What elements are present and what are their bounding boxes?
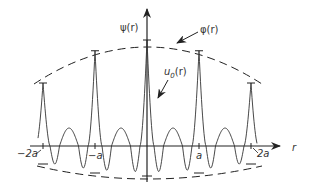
envelope-arrow	[177, 32, 198, 43]
diagram-canvas: ψ(r) r φ(r) u0(r) −2a −a a 2a	[0, 0, 314, 187]
y-axis-label: ψ(r)	[120, 22, 139, 33]
tick-label-minus-2a: −2a	[17, 148, 38, 159]
periodic-arrow	[158, 80, 168, 98]
periodic-label: u0(r)	[164, 66, 187, 80]
envelope-bottom-curve	[37, 166, 262, 179]
tick-label-2a: 2a	[257, 148, 270, 159]
tick-label-a: a	[196, 150, 202, 161]
periodic-label-arg: (r)	[175, 66, 187, 77]
x-axis-label: r	[292, 142, 297, 153]
envelope-label: φ(r)	[200, 24, 219, 35]
tick-label-minus-a: −a	[88, 150, 103, 161]
